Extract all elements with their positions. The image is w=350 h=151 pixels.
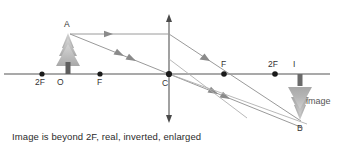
ray-parallel-refracted <box>169 34 301 121</box>
ray-from-F-through-lens <box>169 59 247 118</box>
axis-dot-left-F <box>97 71 102 76</box>
axis-dot-left-2F <box>39 71 44 76</box>
label-right-2F: 2F <box>268 60 278 69</box>
ray-lower-to-B <box>169 74 307 124</box>
label-object-point-A: A <box>64 20 70 29</box>
object-tree <box>56 33 80 74</box>
label-image-point-B: B <box>297 124 303 133</box>
label-image-point-I: I <box>293 60 295 69</box>
ray-diagram-figure: 2F O F C F 2F I A B image Image is beyon… <box>0 0 350 151</box>
ray-through-center-refracted <box>169 74 303 128</box>
lens-plane <box>166 14 172 123</box>
label-center-C: C <box>162 79 168 88</box>
axis-dot-right-F <box>221 71 227 77</box>
label-left-2F: 2F <box>35 78 45 87</box>
ray-parallel-incident <box>70 31 169 38</box>
label-image-word: image <box>306 96 331 106</box>
axis-dot-right-2F <box>272 71 278 77</box>
label-optical-center-O: O <box>57 78 64 87</box>
ray-through-center-incident <box>70 34 169 74</box>
label-left-F: F <box>97 78 102 87</box>
axis-dot-center-C <box>166 71 172 77</box>
figure-caption: Image is beyond 2F, real, inverted, enla… <box>12 131 201 142</box>
label-right-F: F <box>221 60 226 69</box>
